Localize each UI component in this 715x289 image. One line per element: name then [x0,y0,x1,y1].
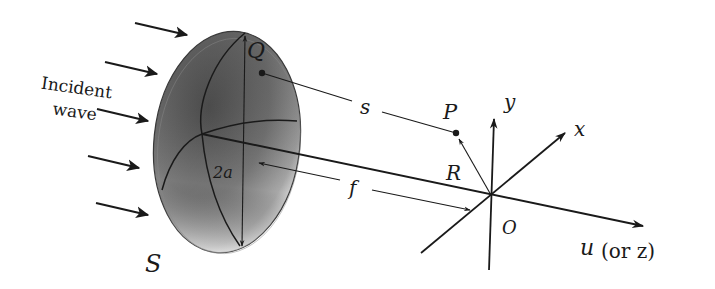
label-s: s [360,95,370,119]
label-O: O [502,217,517,238]
incident-label-line2: wave [51,98,98,124]
label-2a: 2a [212,163,233,182]
label-R: R [445,161,461,185]
incident-arrow-5 [96,203,148,215]
incident-arrow-3 [97,109,148,121]
diffraction-diagram: Incident wave 2a Q s P R f [0,0,715,289]
label-y: y [503,90,516,114]
label-f: f [347,176,360,200]
incident-arrow-2 [105,62,157,74]
R-vector [459,139,491,195]
label-x: x [574,117,585,141]
incident-arrow-4 [88,156,139,168]
f-line-right [372,190,470,210]
point-P [453,130,459,136]
label-Q: Q [247,38,265,63]
incident-label-line1: Incident [40,73,114,103]
label-P: P [442,100,458,124]
incident-wave-label: Incident wave [37,73,114,127]
label-S: S [145,250,161,278]
aperture: 2a [143,24,311,261]
label-u: u [580,235,594,260]
incident-arrow-1 [135,23,187,35]
label-u-paren: (or z) [601,239,655,263]
